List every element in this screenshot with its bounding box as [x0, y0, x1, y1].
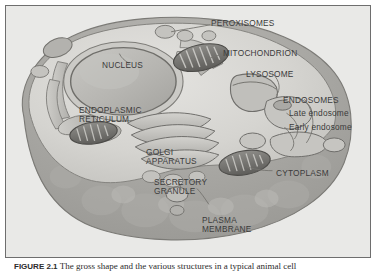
figure-caption-label: FIGURE 2.1 — [14, 262, 58, 271]
figure-caption-text: The gross shape and the various structur… — [60, 261, 297, 271]
figure-frame: PEROXISOMES MITOCHONDRION LYSOSOME ENDOS… — [5, 5, 371, 258]
figure-caption: FIGURE 2.1 The gross shape and the vario… — [14, 261, 386, 272]
animal-cell-illustration — [6, 6, 370, 257]
figure-root: PEROXISOMES MITOCHONDRION LYSOSOME ENDOS… — [0, 0, 391, 273]
nucleus-shape — [64, 42, 183, 121]
